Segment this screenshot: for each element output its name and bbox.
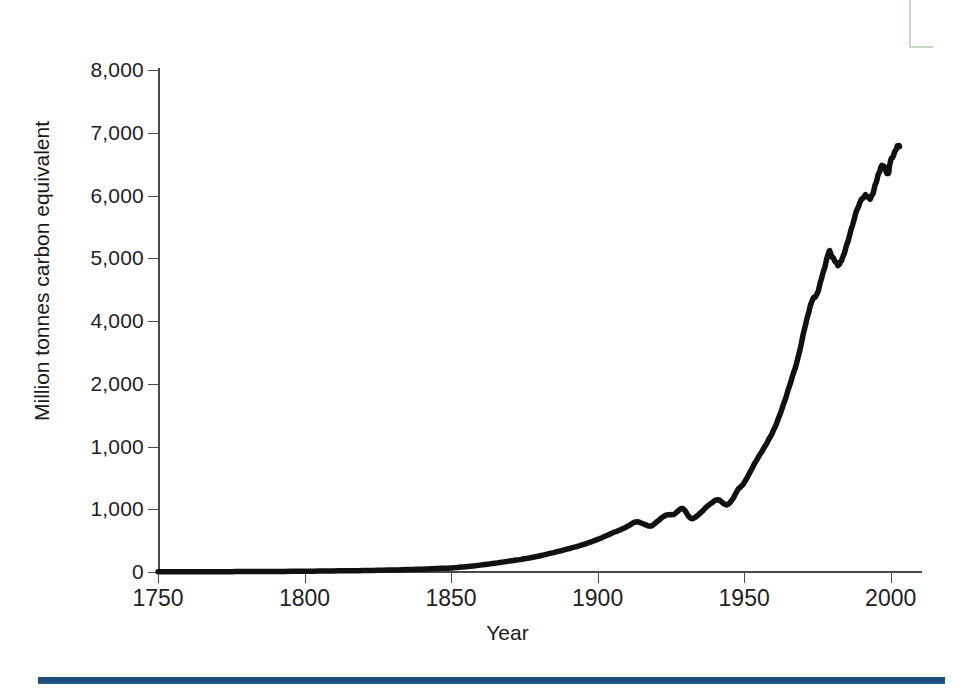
emissions-line: [158, 146, 899, 572]
x-axis-tick-label: 1900: [543, 585, 653, 611]
x-axis-tick: [891, 572, 892, 583]
x-axis-tick-label: 1950: [689, 585, 799, 611]
y-axis-tick: [148, 321, 158, 322]
y-axis-tick-label: 1,000: [34, 498, 144, 519]
y-axis-title: Million tonnes carbon equivalent: [31, 61, 53, 481]
y-axis-tick: [148, 258, 158, 259]
corner-crop-mark-icon: [909, 0, 933, 48]
y-axis-line: [158, 68, 160, 574]
y-axis-tick-label-text: 4,000: [44, 310, 144, 331]
x-axis-tick-label: 1850: [396, 585, 506, 611]
y-axis-tick-label: 0: [34, 561, 144, 582]
x-axis-line: [158, 571, 922, 573]
y-axis-tick: [148, 196, 158, 197]
y-axis-tick-label-text: 1,000: [44, 498, 144, 519]
x-axis-title: Year: [0, 622, 953, 644]
x-axis-tick: [744, 572, 745, 583]
y-axis-tick: [148, 509, 158, 510]
y-axis-tick: [148, 572, 158, 573]
y-axis-tick-label-text: 2,000: [44, 373, 144, 394]
y-axis-tick-label-text: 8,000: [44, 59, 144, 80]
y-axis-tick-label-text: 1,000: [44, 436, 144, 457]
x-axis-tick-label: 2000: [836, 585, 946, 611]
x-axis-tick: [305, 572, 306, 583]
carbon-emissions-figure: 8,0007,0006,0005,0004,0002,0001,0001,000…: [0, 0, 953, 689]
y-axis-tick-label-text: 7,000: [44, 122, 144, 143]
y-axis-tick: [148, 70, 158, 71]
y-axis-tick: [148, 133, 158, 134]
x-axis-tick: [598, 572, 599, 583]
y-axis-tick: [148, 447, 158, 448]
y-axis-tick-label-text: 0: [44, 561, 144, 582]
y-axis-tick-label-text: 6,000: [44, 185, 144, 206]
x-axis-title-text: Year: [486, 622, 528, 644]
y-axis-tick-label-text: 5,000: [44, 247, 144, 268]
x-axis-tick: [451, 572, 452, 583]
footer-rule: [38, 677, 945, 684]
x-axis-tick-label: 1750: [103, 585, 213, 611]
x-axis-tick-label: 1800: [250, 585, 360, 611]
y-axis-tick: [148, 384, 158, 385]
x-axis-tick: [158, 572, 159, 583]
